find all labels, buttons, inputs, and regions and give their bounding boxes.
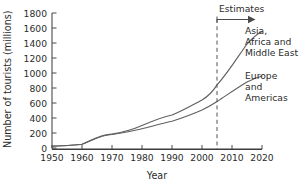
x-tick-label: 1980: [130, 152, 154, 163]
y-axis-title: Number of tourists (millions): [2, 11, 13, 148]
series-line-europe-americas: [52, 76, 262, 146]
y-tick-label: 400: [29, 113, 47, 124]
series-label-line: Middle East: [245, 47, 298, 58]
x-tick-label: 1990: [160, 152, 184, 163]
series-label-asia-africa-middle-east: Asia, Africa and Middle East: [245, 25, 298, 58]
y-axis-tick-labels: 0 200 400 600 800 1000 1200 1400 1600 18…: [24, 8, 48, 154]
y-axis: [52, 13, 57, 148]
y-tick-label: 1800: [24, 8, 48, 19]
estimates-arrow-icon: [217, 16, 256, 23]
y-tick-label: 1200: [24, 53, 48, 64]
chart-canvas: Number of tourists (millions) 0 200 400 …: [0, 0, 301, 188]
series-label-line: Europe: [245, 70, 278, 81]
series-line-asia-africa-middle-east: [52, 32, 262, 147]
y-tick-label: 800: [29, 83, 47, 94]
x-axis-tick-labels: 1950 1960 1970 1980 1990 2000 2010 2020: [40, 152, 274, 163]
x-tick-label: 1960: [70, 152, 94, 163]
y-tick-label: 1000: [24, 68, 48, 79]
series-label-line: Asia,: [245, 25, 267, 36]
x-axis: [52, 145, 262, 149]
x-axis-title: Year: [146, 170, 167, 181]
x-tick-label: 2020: [250, 152, 274, 163]
series-label-line: and: [245, 81, 262, 92]
y-tick-label: 600: [29, 98, 47, 109]
series-label-line: Africa and: [245, 36, 291, 47]
x-tick-label: 1950: [40, 152, 64, 163]
x-tick-label: 1970: [100, 152, 124, 163]
tourism-line-chart: Number of tourists (millions) 0 200 400 …: [0, 0, 301, 188]
series-label-line: Americas: [245, 92, 288, 103]
estimates-annotation-label: Estimates: [219, 3, 265, 14]
y-tick-label: 200: [29, 128, 47, 139]
series-label-europe-americas: Europe and Americas: [245, 70, 288, 103]
x-tick-label: 2000: [190, 152, 214, 163]
x-tick-label: 2010: [220, 152, 244, 163]
y-tick-label: 1400: [24, 38, 48, 49]
y-tick-label: 1600: [24, 23, 48, 34]
